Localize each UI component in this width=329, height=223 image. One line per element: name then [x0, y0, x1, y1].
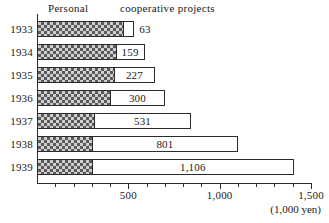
plot-area: Personal cooperative projects 1933631934… — [0, 0, 329, 223]
year-axis-label: 1936 — [0, 90, 33, 106]
x-axis-minor-tick — [256, 183, 257, 187]
bar-value-label: 159 — [122, 44, 139, 60]
year-axis-label: 1939 — [0, 159, 33, 175]
x-axis-minor-tick — [110, 183, 111, 187]
legend-label-cooperative: cooperative projects — [120, 2, 215, 14]
x-axis-minor-tick — [92, 183, 93, 187]
x-axis-line — [37, 183, 311, 184]
bar-segment-personal — [38, 160, 93, 174]
year-axis-label: 1934 — [0, 44, 33, 60]
bar-segment-personal — [38, 22, 124, 36]
bar-chart-figure: Personal cooperative projects 1933631934… — [0, 0, 329, 223]
x-axis-minor-tick — [147, 183, 148, 187]
x-axis-minor-tick — [183, 183, 184, 187]
bar-value-label: 801 — [156, 136, 173, 152]
x-axis-minor-tick — [55, 183, 56, 187]
stacked-bar — [37, 136, 238, 152]
bar-segment-personal — [38, 91, 111, 105]
stacked-bar — [37, 113, 191, 129]
bar-segment-personal — [38, 68, 115, 82]
x-axis-minor-tick — [274, 183, 275, 187]
year-axis-label: 1938 — [0, 136, 33, 152]
x-axis-minor-tick — [201, 183, 202, 187]
bar-value-label: 300 — [129, 90, 146, 106]
year-axis-label: 1933 — [0, 21, 33, 37]
bar-segment-personal — [38, 137, 93, 151]
bar-segment-personal — [38, 45, 117, 59]
stacked-bar — [37, 21, 134, 37]
bar-segment-personal — [38, 114, 95, 128]
x-axis-tick-label: 1,500 — [298, 189, 324, 201]
bar-value-label: 1,106 — [180, 159, 206, 175]
x-axis-minor-tick — [74, 183, 75, 187]
x-axis-tick-label: 500 — [120, 189, 137, 201]
year-axis-label: 1937 — [0, 113, 33, 129]
bar-value-label: 63 — [139, 21, 150, 37]
year-axis-label: 1935 — [0, 67, 33, 83]
stacked-bar — [37, 159, 294, 175]
bar-value-label: 227 — [126, 67, 143, 83]
bar-value-label: 531 — [134, 113, 151, 129]
legend-label-personal: Personal — [48, 2, 88, 14]
x-axis-minor-tick — [165, 183, 166, 187]
x-axis-minor-tick — [293, 183, 294, 187]
x-axis-unit-label: (1,000 yen) — [270, 203, 321, 215]
x-axis-minor-tick — [238, 183, 239, 187]
x-axis-tick-label: 1,000 — [207, 189, 233, 201]
